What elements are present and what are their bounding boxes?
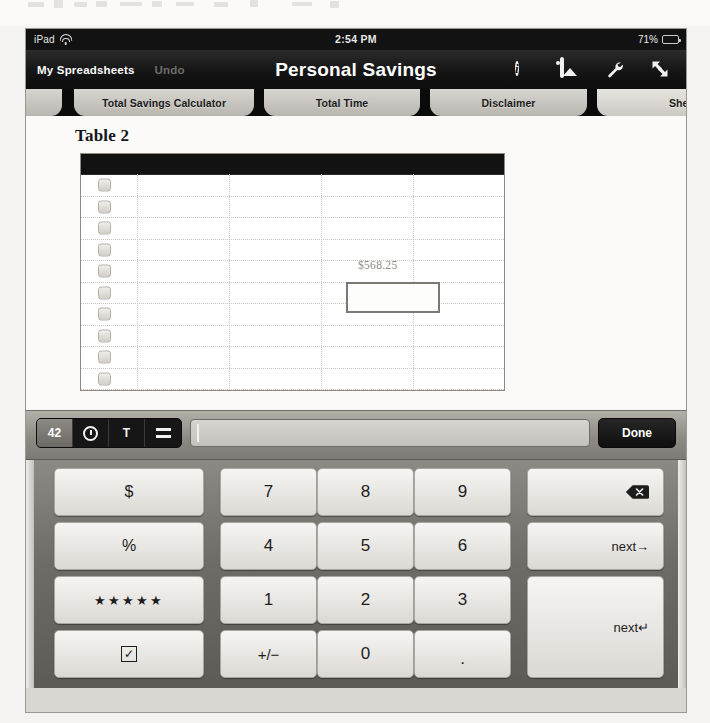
key-percent[interactable]: % [54,522,204,570]
table-row[interactable] [81,197,504,219]
key-0[interactable]: 0 [317,630,414,678]
selected-cell[interactable] [346,282,440,313]
formula-bar: 42 T Done [26,410,686,460]
key-7[interactable]: 7 [220,468,317,516]
info-button[interactable]: i [515,59,537,81]
key-2[interactable]: 2 [317,576,414,624]
text-caret [197,424,199,442]
key-4[interactable]: 4 [220,522,317,570]
toolbar-right-group: i [515,50,672,89]
battery-icon [662,35,679,44]
tab-disclaimer[interactable]: Disclaimer [430,89,587,116]
key-checkbox[interactable]: ✓ [54,630,204,678]
wrench-icon [605,59,625,79]
cell-value-amount[interactable]: $568.25 [358,259,397,271]
status-bar-right: 71% [638,29,679,50]
page-root: iPad 2:54 PM 71% My Spreadsheets Undo Pe… [0,0,710,723]
key-plus-minus[interactable]: +/− [220,630,317,678]
checkbox-cell-icon[interactable] [98,243,111,256]
key-1[interactable]: 1 [220,576,317,624]
key-gap [511,522,527,570]
scan-artifact [0,0,710,26]
fullscreen-button[interactable] [650,59,672,81]
battery-percent-label: 71% [638,29,658,50]
numeric-keyboard: $ 7 8 9 % 4 5 6 next→ [26,460,686,688]
checkbox-cell-icon[interactable] [98,329,111,342]
key-gap [511,468,527,516]
key-9[interactable]: 9 [414,468,511,516]
checkbox-cell-icon[interactable] [98,351,111,364]
checkbox-cell-icon[interactable] [98,179,111,192]
equals-icon [156,428,171,438]
info-icon: i [515,61,519,76]
key-gap [511,576,527,624]
key-period[interactable]: . [414,630,511,678]
backspace-icon [625,484,649,500]
app-toolbar: My Spreadsheets Undo Personal Savings i [26,50,686,89]
spreadsheet-canvas[interactable]: Table 2 $568.25 [26,116,686,410]
checkbox-cell-icon[interactable] [98,286,111,299]
table-row[interactable] [81,218,504,240]
table-header-row[interactable] [81,154,504,175]
formula-format-button[interactable] [145,419,181,447]
tools-button[interactable] [605,59,627,81]
key-gap [204,522,220,570]
checkbox-cell-icon[interactable] [98,222,111,235]
key-3[interactable]: 3 [414,576,511,624]
table-row[interactable] [81,326,504,348]
key-gap [204,630,220,678]
table-row[interactable] [81,283,504,305]
key-next-return[interactable]: next↵ [527,576,664,678]
tab-table[interactable]: le... [26,89,62,116]
insert-media-button[interactable] [560,59,582,81]
checkbox-cell-icon[interactable] [98,200,111,213]
datetime-format-button[interactable] [73,419,109,447]
table-row[interactable] [81,240,504,262]
status-bar-clock: 2:54 PM [26,29,686,50]
keyboard-left-edge [26,460,34,688]
data-table[interactable]: $568.25 [80,153,505,391]
fullscreen-icon [650,59,670,79]
tab-total-savings-calculator[interactable]: Total Savings Calculator [74,89,254,116]
key-5[interactable]: 5 [317,522,414,570]
key-star-rating[interactable]: ★★★★★ [54,576,204,624]
checkbox-cell-icon[interactable] [98,372,111,385]
key-next-right[interactable]: next→ [527,522,664,570]
key-backspace[interactable] [527,468,664,516]
table-title: Table 2 [75,126,129,146]
table-row[interactable] [81,347,504,369]
status-bar: iPad 2:54 PM 71% [26,29,686,50]
table-row[interactable] [81,175,504,197]
sheet-tab-bar: le... Total Savings Calculator Total Tim… [26,89,686,116]
checkbox-cell-icon[interactable] [98,265,111,278]
key-dollar[interactable]: $ [54,468,204,516]
table-row[interactable] [81,304,504,326]
tab-sheet[interactable]: Sheet [597,89,686,116]
done-button[interactable]: Done [598,418,676,448]
key-gap [204,576,220,624]
table-row[interactable] [81,261,504,283]
number-format-button[interactable]: 42 [37,419,73,447]
image-icon [560,57,564,78]
table-row[interactable] [81,369,504,391]
key-8[interactable]: 8 [317,468,414,516]
key-gap [511,630,527,678]
ipad-screenshot: iPad 2:54 PM 71% My Spreadsheets Undo Pe… [25,28,687,713]
clock-icon [83,426,98,441]
checkbox-icon: ✓ [121,646,137,662]
tab-total-time[interactable]: Total Time [264,89,420,116]
checkbox-cell-icon[interactable] [98,308,111,321]
cell-format-segmented-control[interactable]: 42 T [36,418,182,448]
key-gap [204,468,220,516]
formula-input[interactable] [190,419,590,447]
text-format-button[interactable]: T [109,419,145,447]
key-6[interactable]: 6 [414,522,511,570]
keyboard-right-edge [678,460,686,688]
